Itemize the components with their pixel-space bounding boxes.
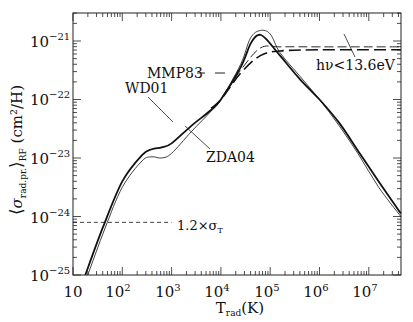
label-zda04: ZDA04: [206, 149, 255, 165]
annotations: WD01 ZDA04 MMP83 hν<13.6eV 1.2×σT: [125, 34, 396, 235]
arrow-wd01: [148, 97, 173, 122]
label-hnu: hν<13.6eV: [316, 57, 396, 73]
y-tick-label: 10−25: [30, 265, 70, 285]
y-tick-label: 10−23: [30, 148, 70, 168]
y-tick-label: 10−21: [30, 31, 70, 51]
label-sigmaT: 1.2×σT: [177, 218, 223, 235]
label-mmp83: MMP83: [147, 65, 203, 81]
y-tick-label: 10−22: [30, 89, 70, 109]
x-tick-label: 106: [303, 282, 328, 301]
svg-text:⟨σrad.pr.⟩RF (cm²/H): ⟨σrad.pr.⟩RF (cm²/H): [6, 85, 28, 215]
series-mmp83: [211, 46, 401, 108]
y-axis-title: ⟨σrad.pr.⟩RF (cm²/H): [6, 85, 28, 215]
x-tick-label: 102: [105, 282, 130, 301]
arrow-hnu: [344, 34, 355, 57]
x-tick-label: 107: [352, 282, 377, 301]
x-axis-title: Trad(K): [216, 299, 264, 318]
x-minor-ticks: [73, 13, 398, 275]
x-tick-label: 10: [63, 283, 82, 301]
y-tick-label: 10−24: [30, 207, 70, 227]
arrow-zda04: [185, 126, 210, 149]
label-wd01: WD01: [125, 80, 168, 96]
y-tick-labels: 10−21 10−22 10−23 10−24 10−25: [30, 31, 70, 285]
chart: 10 102 103 104 105 106 107 10−21 10−22 1…: [0, 0, 413, 322]
x-tick-label: 103: [155, 282, 180, 301]
